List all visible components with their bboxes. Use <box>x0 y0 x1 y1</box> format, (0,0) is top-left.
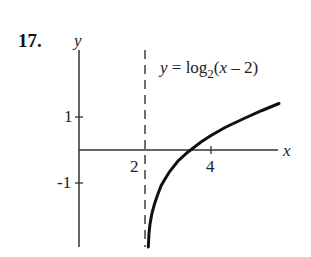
x-tick-label-2: 2 <box>130 157 139 176</box>
eq-log: = log <box>168 58 208 77</box>
equation-label: y = log2(x – 2) <box>158 58 258 81</box>
problem-number: 17. <box>18 30 42 51</box>
y-tick-label-1: 1 <box>64 107 73 126</box>
eq-rest: – 2) <box>227 58 258 77</box>
y-axis-label: y <box>72 31 82 50</box>
log-graph: 17. y x 1 -1 4 2 y = log2(x – 2) <box>0 0 311 257</box>
x-axis-label: x <box>282 141 291 160</box>
y-tick-label-neg1: -1 <box>57 173 71 192</box>
eq-y: y <box>158 58 168 77</box>
x-tick-label-4: 4 <box>206 157 215 176</box>
